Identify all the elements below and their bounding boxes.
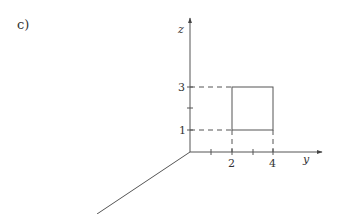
z-tick-label-1: 1: [179, 124, 186, 137]
y-tick-label-4: 4: [269, 157, 276, 170]
x-axis: [97, 152, 190, 214]
y-axis-label: y: [302, 153, 310, 166]
part-label: c): [17, 17, 29, 32]
z-tick-label-3: 3: [178, 81, 185, 94]
z-axis-label: z: [177, 23, 184, 36]
region-rectangle: [232, 87, 273, 130]
coordinate-diagram: c) z y 1 3 2 4: [0, 0, 339, 214]
y-tick-label-2: 2: [228, 157, 235, 170]
